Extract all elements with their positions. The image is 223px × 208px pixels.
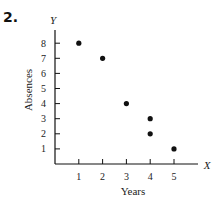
y-tick-label: 3 — [41, 113, 46, 124]
y-tick-label: 4 — [41, 98, 46, 109]
y-tick-label: 5 — [41, 83, 46, 94]
data-point — [100, 56, 105, 61]
x-tick-label: 5 — [172, 171, 177, 182]
x-axis-title: Years — [121, 185, 146, 197]
y-tick-label: 2 — [41, 128, 46, 139]
x-axis-letter: X — [203, 159, 212, 171]
scatter-plot: YX1234567812345YearsAbsences — [0, 0, 223, 208]
y-tick-label: 1 — [41, 143, 46, 154]
y-tick-label: 6 — [41, 68, 46, 79]
y-tick-label: 7 — [41, 53, 46, 64]
y-tick-label: 8 — [41, 38, 46, 49]
data-point — [148, 131, 153, 136]
data-point — [171, 146, 176, 151]
data-point — [76, 41, 81, 46]
data-point — [124, 101, 129, 106]
x-tick-label: 4 — [148, 171, 153, 182]
y-axis-letter: Y — [50, 14, 58, 26]
y-axis-title: Absences — [22, 69, 34, 111]
x-tick-label: 2 — [100, 171, 105, 182]
x-tick-label: 1 — [76, 171, 81, 182]
data-point — [148, 116, 153, 121]
x-tick-label: 3 — [124, 171, 129, 182]
